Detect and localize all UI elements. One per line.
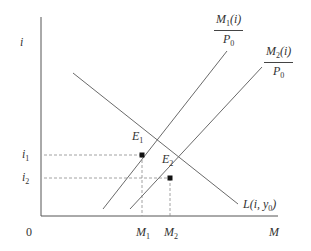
- point-label-e1: E1: [132, 130, 143, 145]
- equilibrium-point-e1: [140, 153, 145, 158]
- money-demand-label: L(i, y0): [243, 198, 276, 213]
- ms1-den-sub: 0: [230, 39, 234, 48]
- money-demand-label-close: ): [272, 197, 276, 211]
- x-tick-m1-sub: 1: [146, 232, 150, 241]
- y-tick-i2: i2: [22, 171, 29, 186]
- y-axis-label: i: [20, 36, 23, 48]
- diagram-canvas: [0, 0, 311, 251]
- x-tick-m1: M1: [136, 226, 150, 241]
- money-supply-2-curve: [130, 67, 262, 209]
- point-label-e2-sub: 2: [169, 159, 173, 168]
- y-tick-i2-sub: 2: [25, 177, 29, 186]
- money-supply-1-label: M1(i) P0: [214, 13, 243, 48]
- x-tick-m2-sub: 2: [174, 232, 178, 241]
- ms2-den-sub: 0: [280, 71, 284, 80]
- y-tick-i1: i1: [22, 148, 29, 163]
- y-tick-i1-sub: 1: [25, 154, 29, 163]
- origin-label: 0: [26, 226, 32, 238]
- money-supply-1-numerator: M1(i): [214, 13, 243, 31]
- ms2-num-main: M: [266, 44, 276, 58]
- x-axis-label: M: [269, 226, 279, 238]
- equilibrium-point-e2: [168, 176, 173, 181]
- point-label-e2: E2: [162, 153, 173, 168]
- money-supply-2-denominator: P0: [264, 63, 293, 80]
- money-supply-2-label: M2(i) P0: [264, 45, 293, 80]
- ms1-num-rest: (i): [230, 12, 241, 26]
- money-demand-curve: [73, 73, 238, 204]
- x-tick-m2-main: M: [164, 225, 174, 239]
- money-supply-1-denominator: P0: [214, 31, 243, 48]
- ms2-num-rest: (i): [280, 44, 291, 58]
- point-label-e1-sub: 1: [139, 136, 143, 145]
- x-tick-m1-main: M: [136, 225, 146, 239]
- money-supply-2-numerator: M2(i): [264, 45, 293, 63]
- x-tick-m2: M2: [164, 226, 178, 241]
- money-demand-label-main: L(i, y: [243, 197, 268, 211]
- ms1-num-main: M: [216, 12, 226, 26]
- money-supply-1-curve: [103, 51, 227, 209]
